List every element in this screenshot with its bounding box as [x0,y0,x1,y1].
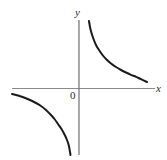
origin-label: 0 [70,90,76,101]
y-axis-label: y [75,7,80,18]
graph-canvas [0,0,167,160]
hyperbola-branch-upper-right [89,21,147,82]
hyperbola-figure: y x 0 [0,0,167,160]
hyperbola-branch-lower-left [12,94,71,155]
x-axis-label: x [156,83,161,94]
